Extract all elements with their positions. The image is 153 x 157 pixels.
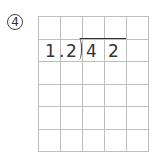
grid-cell <box>61 17 83 40</box>
grid-cell <box>61 62 83 85</box>
grid-cell <box>83 107 105 130</box>
divisor-digit-1: 1 <box>45 41 56 61</box>
grid-cell <box>127 40 149 63</box>
grid-cell <box>127 17 149 40</box>
grid-cell <box>105 85 127 108</box>
grid-cell <box>83 130 105 153</box>
grid-cell <box>39 107 61 130</box>
grid-cell <box>61 85 83 108</box>
grid-cell <box>83 85 105 108</box>
grid-cell <box>105 17 127 40</box>
dividend-digit-2: 2 <box>108 41 119 61</box>
grid-cell <box>105 62 127 85</box>
grid-cell <box>105 130 127 153</box>
grid-cell <box>127 130 149 153</box>
divisor-decimal-point: . <box>59 41 64 61</box>
problem-number-label: 4 <box>7 14 23 30</box>
grid-cell <box>127 85 149 108</box>
grid-cell <box>127 107 149 130</box>
grid-cell <box>83 17 105 40</box>
division-grid <box>38 16 149 152</box>
grid-cell <box>39 85 61 108</box>
grid-cell <box>105 107 127 130</box>
grid-cell <box>127 62 149 85</box>
grid-cell <box>39 62 61 85</box>
grid-cell <box>61 130 83 153</box>
dividend-digit-1: 4 <box>86 41 97 61</box>
grid-cell <box>61 107 83 130</box>
grid-cell <box>39 17 61 40</box>
grid-cell <box>39 130 61 153</box>
grid-cell <box>83 62 105 85</box>
